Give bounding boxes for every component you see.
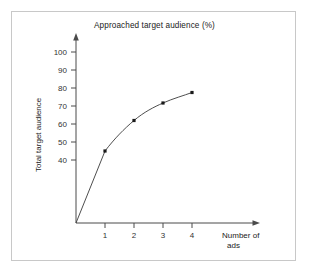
y-tick-label: 70: [58, 102, 67, 111]
plot-area: 100 90 80 70 60 50 40 Total target audie…: [12, 12, 297, 262]
x-tick-label: 2: [132, 231, 137, 240]
y-tick-label: 80: [58, 84, 67, 93]
data-point-marker: [103, 149, 106, 152]
x-axis-arrow-icon: [253, 220, 261, 226]
y-tick-label: 60: [58, 120, 67, 129]
y-axis-title: Total target audience: [34, 97, 43, 172]
data-line: [76, 93, 192, 224]
x-axis-group: 1 2 3 4 Number of ads: [76, 220, 260, 250]
y-tick-label: 100: [54, 48, 68, 57]
x-tick-label: 1: [103, 231, 108, 240]
y-axis-group: 100 90 80 70 60 50 40 Total target audie…: [34, 33, 79, 223]
x-axis-title-line2: ads: [227, 241, 240, 250]
y-tick-label: 90: [58, 66, 67, 75]
figure-root: Approached target audience (%) 100 90 80…: [0, 0, 309, 273]
y-axis-arrow-icon: [73, 33, 79, 41]
y-tick-label: 40: [58, 156, 67, 165]
data-point-marker: [190, 91, 193, 94]
y-tick-label: 50: [58, 138, 67, 147]
chart-frame: Approached target audience (%) 100 90 80…: [11, 11, 296, 261]
data-point-marker: [161, 101, 164, 104]
x-tick-label: 4: [190, 231, 195, 240]
x-tick-label: 3: [161, 231, 166, 240]
x-axis-title-line1: Number of: [222, 231, 260, 240]
data-series-total-target-audience: [76, 91, 194, 223]
data-point-marker: [132, 119, 135, 122]
